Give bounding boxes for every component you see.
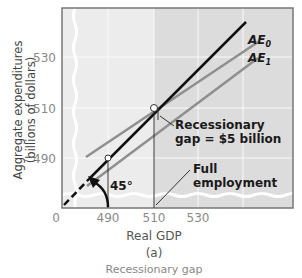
recessionary-gap-chart: 45° AE0 AE1 Recessionary gap = $5 billio…	[0, 0, 302, 278]
full-employment-line1: Full	[193, 162, 217, 176]
y-axis-title: Aggregate expenditures (billions of doll…	[11, 41, 38, 180]
point-490	[105, 155, 111, 161]
gap-annotation-line2: gap = $5 billion	[175, 132, 281, 146]
origin-label: 0	[52, 211, 60, 225]
svg-text:Aggregate expenditures: Aggregate expenditures	[11, 41, 25, 180]
x-tick-530: 530	[187, 211, 210, 225]
full-employment-line2: employment	[193, 176, 278, 190]
x-tick-510: 510	[143, 211, 166, 225]
panel-label: (a)	[146, 246, 163, 260]
point-510	[151, 105, 158, 112]
x-tick-490: 490	[97, 211, 120, 225]
gap-annotation-line1: Recessionary	[175, 118, 265, 132]
x-axis-title: Real GDP	[126, 229, 181, 243]
chart-caption: Recessionary gap	[106, 263, 203, 276]
svg-text:(billions of dollars): (billions of dollars)	[24, 57, 38, 163]
angle-label: 45°	[110, 179, 133, 193]
